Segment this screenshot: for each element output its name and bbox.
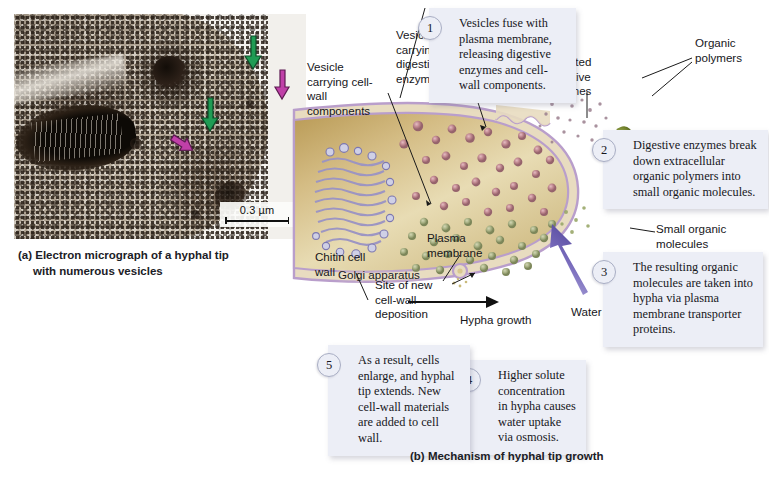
panel-b-diagram: Golgi apparatus Vesicle bbox=[300, 0, 768, 480]
water-arrow bbox=[550, 224, 588, 295]
step-number-1: 1 bbox=[418, 16, 442, 40]
step-number-2: 2 bbox=[592, 138, 616, 162]
micrograph-image: 0.3 µm bbox=[14, 14, 306, 239]
label-organic-polymers: Organic polymers bbox=[695, 36, 769, 65]
label-chitin-cell-wall: Chitin cell wall bbox=[315, 250, 385, 279]
micrograph-dark-vesicle-1 bbox=[153, 56, 186, 87]
step-box-5: 5 As a result, cells enlarge, and hyphal… bbox=[328, 345, 470, 456]
panel-b-caption: (b) Mechanism of hyphal tip growth bbox=[410, 450, 604, 462]
step-text-1: Vesicles fuse with plasma membrane, rele… bbox=[429, 8, 576, 103]
step-box-4: 4 Higher solute concentration in hypha c… bbox=[468, 360, 586, 455]
panel-a-micrograph: 0.3 µm bbox=[14, 14, 306, 239]
label-small-organic-molecules: Small organic molecules bbox=[656, 222, 734, 251]
step-text-2: Digestive enzymes break down extracellul… bbox=[603, 130, 768, 209]
step-text-3: The resulting organic molecules are take… bbox=[603, 252, 763, 347]
panel-a-caption-line1: (a) Electron micrograph of a hyphal tip bbox=[18, 249, 229, 261]
step-text-4: Higher solute concentration in hypha cau… bbox=[468, 360, 586, 455]
step-box-1: 1 Vesicles fuse with plasma membrane, re… bbox=[429, 8, 576, 103]
label-site-of-deposition: Site of new cell-wall deposition bbox=[375, 278, 453, 322]
step-text-5: As a result, cells enlarge, and hyphal t… bbox=[328, 345, 470, 456]
micrograph-dark-vesicle-4 bbox=[191, 210, 200, 219]
scale-bar-label: 0.3 µm bbox=[240, 204, 274, 216]
panel-a-caption: (a) Electron micrograph of a hyphal tip … bbox=[18, 248, 288, 280]
panel-a-caption-line2: with numerous vesicles bbox=[18, 264, 288, 280]
step-box-3: 3 The resulting organic molecules are ta… bbox=[603, 252, 763, 347]
label-hypha-growth: Hypha growth bbox=[460, 313, 566, 328]
scale-bar-line bbox=[225, 217, 289, 224]
label-vesicle-cell-wall: Vesicle carrying cell-wall components bbox=[307, 60, 387, 118]
step-box-2: 2 Digestive enzymes break down extracell… bbox=[603, 130, 768, 209]
micrograph-dark-vesicle-3 bbox=[130, 138, 142, 149]
step-number-3: 3 bbox=[592, 260, 616, 284]
site-of-deposition-vesicle bbox=[453, 264, 468, 287]
step-number-5: 5 bbox=[317, 353, 341, 377]
scale-bar: 0.3 µm bbox=[220, 202, 294, 227]
label-plasma-membrane: Plasma membrane bbox=[427, 231, 507, 260]
micrograph-dark-vesicle-5 bbox=[246, 100, 254, 108]
